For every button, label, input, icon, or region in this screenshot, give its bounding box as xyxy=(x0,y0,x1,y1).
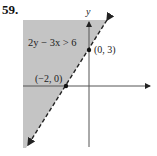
point-label-neg2-0: (−2, 0) xyxy=(35,73,62,85)
point-label-0-3: (0, 3) xyxy=(94,44,116,56)
y-axis-label: y xyxy=(85,6,91,17)
point-neg2-0 xyxy=(64,84,68,88)
graph-canvas: y 2y − 3x > 6 (0, 3) (−2, 0) xyxy=(0,0,157,156)
inequality-graph-figure: 59. y 2y − 3x > 6 (0, 3) (−2, 0) xyxy=(0,0,157,156)
point-0-3 xyxy=(87,48,91,52)
inequality-label: 2y − 3x > 6 xyxy=(28,37,77,48)
